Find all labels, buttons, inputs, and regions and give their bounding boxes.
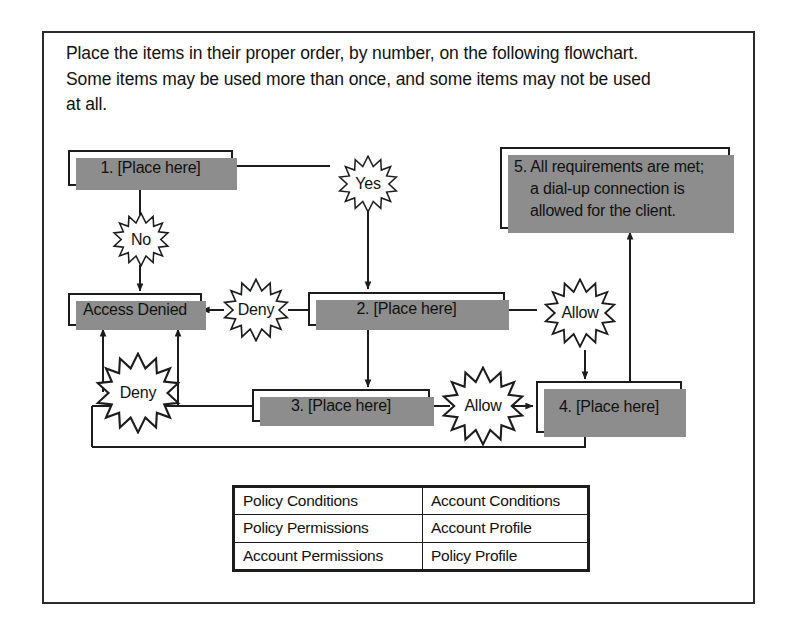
allow-star-2-label: Allow	[440, 366, 526, 446]
instruction-line-2: Some items may be used more than once, a…	[66, 67, 734, 93]
box-3[interactable]: 3. [Place here]	[252, 389, 430, 422]
bank-cell-policy-permissions[interactable]: Policy Permissions	[235, 515, 423, 542]
box-4[interactable]: 4. [Place here]	[536, 381, 682, 433]
no-star: No	[106, 212, 176, 267]
deny-star-1: Deny	[216, 278, 296, 342]
bank-cell-policy-profile[interactable]: Policy Profile	[423, 542, 588, 569]
exercise-page: Place the items in their proper order, b…	[0, 0, 794, 632]
box-5-line-3: allowed for the client.	[514, 200, 718, 222]
box-access-denied: Access Denied	[68, 293, 202, 326]
table-row: Policy Conditions Account Conditions	[235, 488, 588, 515]
bank-cell-policy-conditions[interactable]: Policy Conditions	[235, 488, 423, 515]
allow-star-2: Allow	[440, 366, 526, 446]
box-3-label: 3. [Place here]	[291, 397, 391, 415]
instruction-line-3: at all.	[66, 92, 734, 118]
table-row: Policy Permissions Account Profile	[235, 515, 588, 542]
allow-star-1: Allow	[535, 278, 625, 348]
instruction-line-1: Place the items in their proper order, b…	[66, 41, 734, 67]
bank-cell-account-permissions[interactable]: Account Permissions	[235, 542, 423, 569]
allow-star-1-label: Allow	[535, 278, 625, 348]
box-5-line-2: a dial-up connection is	[514, 178, 718, 200]
box-5-text: 5. All requirements are met; a dial-up c…	[514, 156, 718, 222]
bank-cell-account-conditions[interactable]: Account Conditions	[423, 488, 588, 515]
deny-star-2-label: Deny	[92, 352, 184, 434]
box-5: 5. All requirements are met; a dial-up c…	[500, 147, 730, 229]
box-4-label: 4. [Place here]	[559, 398, 659, 416]
box-access-denied-label: Access Denied	[83, 301, 187, 319]
yes-star: Yes	[328, 155, 408, 213]
instruction-text: Place the items in their proper order, b…	[66, 41, 734, 118]
box-1[interactable]: 1. [Place here]	[68, 150, 233, 186]
box-5-line-1: 5. All requirements are met;	[514, 156, 718, 178]
yes-star-label: Yes	[328, 155, 408, 213]
deny-star-1-label: Deny	[216, 278, 296, 342]
deny-star-2: Deny	[92, 352, 184, 434]
box-2-label: 2. [Place here]	[356, 300, 456, 318]
bank-cell-account-profile[interactable]: Account Profile	[423, 515, 588, 542]
table-row: Account Permissions Policy Profile	[235, 542, 588, 569]
answer-bank-grid: Policy Conditions Account Conditions Pol…	[234, 487, 588, 570]
no-star-label: No	[106, 212, 176, 267]
box-1-label: 1. [Place here]	[100, 159, 200, 177]
answer-bank-table: Policy Conditions Account Conditions Pol…	[232, 485, 590, 572]
box-2[interactable]: 2. [Place here]	[308, 292, 505, 326]
